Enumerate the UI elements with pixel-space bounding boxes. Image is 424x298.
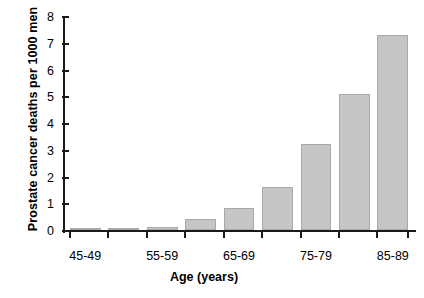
- y-axis-tick-label-6: 6: [28, 64, 54, 78]
- x-axis-tick-labels: 45-4955-5965-6975-7985-89: [63, 249, 416, 267]
- x-axis-tick-label-65-69: 65-69: [223, 249, 255, 263]
- y-axis-tick-7: [62, 43, 69, 45]
- y-axis-tick-2: [62, 177, 69, 179]
- x-axis-tick-75-79: [300, 231, 302, 238]
- y-axis-tick-3: [62, 150, 69, 152]
- bar-chart-figure: Prostate cancer deaths per 1000 men 0123…: [0, 0, 424, 298]
- x-axis-tick-label-75-79: 75-79: [300, 249, 332, 263]
- x-axis-tick-70-74: [261, 231, 263, 238]
- bar-55-59: [147, 227, 178, 230]
- plot-area: [63, 16, 416, 232]
- y-axis-tick-4: [62, 123, 69, 125]
- bar-70-74: [262, 187, 293, 230]
- y-axis-tick-label-1: 1: [28, 197, 54, 211]
- y-axis-tick-8: [62, 16, 69, 18]
- y-axis-tick-label-7: 7: [28, 37, 54, 51]
- bar-80-84: [339, 94, 370, 230]
- y-axis-tick-labels: 012345678: [28, 0, 54, 298]
- bar-60-64: [185, 219, 216, 230]
- y-axis-tick-1: [62, 203, 69, 205]
- x-axis-title-text: Age (years): [170, 270, 238, 284]
- x-axis-tick-80-84: [338, 231, 340, 238]
- x-axis-line: [63, 230, 416, 232]
- y-axis-tick-label-3: 3: [28, 144, 54, 158]
- y-axis-tick-5: [62, 96, 69, 98]
- x-axis-tick-65-69: [223, 231, 225, 238]
- x-axis-tick-label-45-49: 45-49: [69, 249, 101, 263]
- y-axis-tick-6: [62, 70, 69, 72]
- x-axis-tick-55-59: [146, 231, 148, 238]
- x-axis-tick-end: [407, 231, 409, 238]
- x-axis-tick-45-49: [69, 231, 71, 238]
- y-axis-tick-label-8: 8: [28, 10, 54, 24]
- y-axis-tick-label-4: 4: [28, 117, 54, 131]
- y-axis-tick-label-0: 0: [28, 224, 54, 238]
- bar-85-89: [377, 35, 408, 230]
- x-axis-title: Age (years): [0, 270, 424, 284]
- y-axis-tick-label-5: 5: [28, 90, 54, 104]
- x-axis-tick-85-89: [376, 231, 378, 238]
- bar-65-69: [224, 208, 255, 230]
- bar-75-79: [301, 144, 332, 230]
- y-axis-tick-label-2: 2: [28, 171, 54, 185]
- x-axis-tick-50-54: [107, 231, 109, 238]
- x-axis-tick-60-64: [184, 231, 186, 238]
- bar-45-49: [70, 228, 101, 230]
- bar-series: [63, 16, 416, 230]
- bar-50-54: [108, 228, 139, 230]
- x-axis-tick-label-85-89: 85-89: [377, 249, 409, 263]
- x-axis-tick-label-55-59: 55-59: [146, 249, 178, 263]
